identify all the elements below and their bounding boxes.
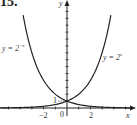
- y-axis-arrow-icon: [65, 0, 70, 6]
- y-tick-label-1: 1: [53, 96, 57, 105]
- x-axis-label: x: [126, 111, 130, 120]
- x-tick-label-0: 0: [60, 110, 64, 119]
- x-tick-label-2: 2: [89, 111, 93, 120]
- x-axis-arrow-icon: [130, 106, 136, 111]
- curve-label-2-pow-x: y = 2x: [103, 52, 122, 62]
- y-axis-label: y: [59, 0, 63, 8]
- curve-label-2-pow-neg-x: y = 2−x: [2, 43, 25, 53]
- exponential-plot: [0, 0, 137, 125]
- x-tick-label-neg2: −2: [39, 111, 48, 120]
